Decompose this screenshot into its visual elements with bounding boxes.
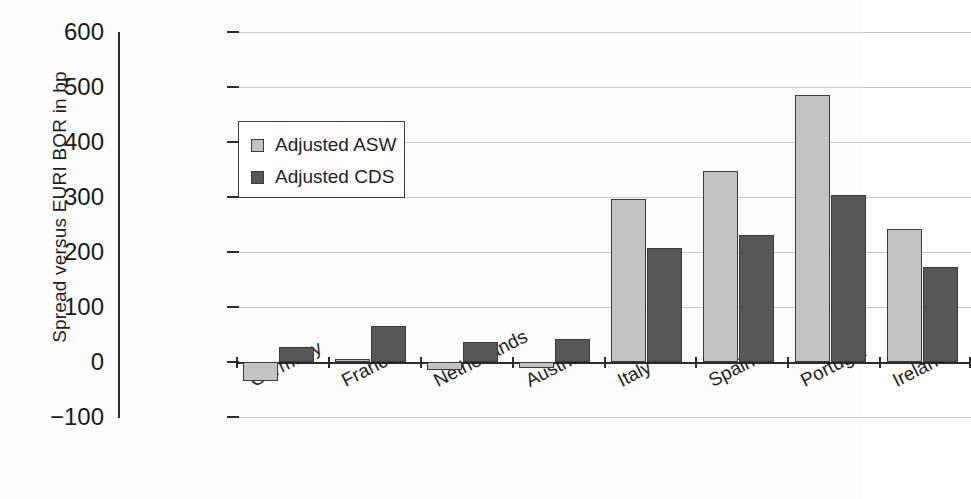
gridline-600 [236,32,971,33]
y-tickmark-500 [227,86,239,88]
gridline--100 [236,417,971,418]
legend-item-adjusted-asw: Adjusted ASW [251,130,396,160]
x-tickmark [787,357,789,368]
bar [739,235,774,362]
bar [335,359,370,362]
y-tickmark--100 [227,416,239,418]
y-tick-label-600: 600 [26,20,104,44]
bar [555,339,590,362]
bar [887,229,922,362]
x-tickmark [328,357,330,368]
plot-wrapper: GermanyFranceNetherlandsAustriaItalySpai… [118,0,861,499]
gridline-500 [236,87,971,88]
x-tickmark [879,357,881,368]
plot-area: GermanyFranceNetherlandsAustriaItalySpai… [236,32,971,417]
y-tick-label-400: 400 [26,130,104,154]
bar [427,362,462,370]
chart-legend: Adjusted ASW Adjusted CDS [238,121,405,198]
bar [647,248,682,362]
bar [611,199,646,362]
legend-label-adjusted-cds: Adjusted CDS [275,166,394,188]
y-axis-tick-labels: 6005004003002001000−100 [22,0,104,499]
y-tick-label-100: 100 [26,295,104,319]
bar [519,362,554,368]
bar [923,267,958,362]
y-tickmark-600 [227,31,239,33]
bar [795,95,830,362]
x-tickmark [236,357,238,368]
x-tickmark [420,357,422,368]
y-tick-label-0: 0 [26,350,104,374]
y-tick-label-200: 200 [26,240,104,264]
y-tick-label-500: 500 [26,75,104,99]
y-tick-label-300: 300 [26,185,104,209]
bar [463,342,498,362]
y-axis-spine [118,32,120,418]
bar [279,347,314,362]
legend-label-adjusted-asw: Adjusted ASW [275,134,396,156]
bar [831,195,866,362]
legend-item-adjusted-cds: Adjusted CDS [251,162,394,192]
legend-swatch-adjusted-asw [251,139,264,152]
y-tickmark-100 [227,306,239,308]
x-tickmark [604,357,606,368]
x-tickmark [695,357,697,368]
y-tickmark-200 [227,251,239,253]
legend-swatch-adjusted-cds [251,171,264,184]
bar [243,362,278,381]
y-tick-label--100: −100 [26,405,104,429]
bar [703,171,738,362]
x-tickmark [512,357,514,368]
bar [371,326,406,362]
